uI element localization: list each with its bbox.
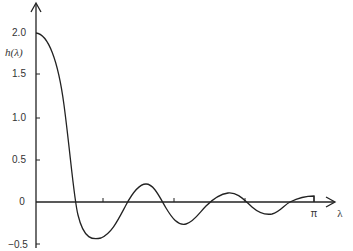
y-tick-label: 0.5 bbox=[12, 154, 26, 165]
x-ticks bbox=[103, 196, 314, 202]
y-tick-label: 1.5 bbox=[12, 68, 26, 79]
x-tick-label-pi: π bbox=[311, 208, 318, 219]
y-tick-label: 1.0 bbox=[12, 112, 26, 123]
y-axis-label: h(λ) bbox=[5, 46, 23, 59]
h-lambda-curve bbox=[36, 33, 314, 239]
y-tick-label: 2.0 bbox=[12, 27, 26, 38]
chart: 2.0 1.5 1.0 0.5 0 −0.5 h(λ) π λ bbox=[0, 0, 353, 251]
y-tick-label: −0.5 bbox=[8, 239, 28, 250]
x-axis-label: λ bbox=[337, 207, 343, 219]
y-tick-label: 0 bbox=[19, 196, 25, 207]
